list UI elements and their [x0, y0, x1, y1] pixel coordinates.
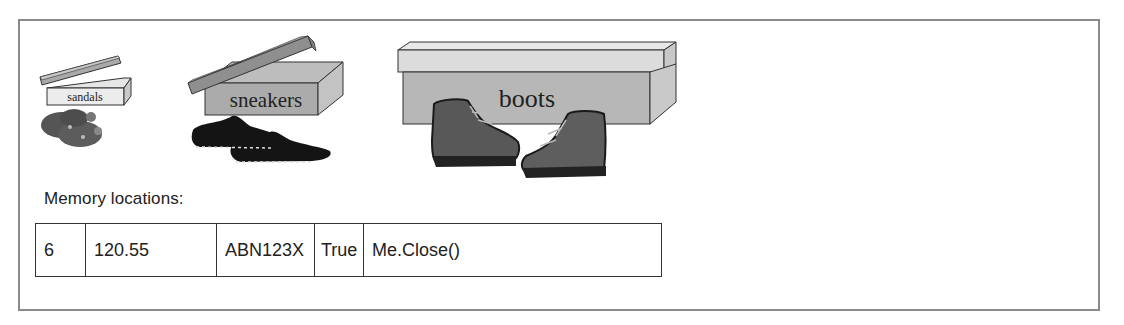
- memory-row: 6 120.55 ABN123X True Me.Close(): [36, 224, 662, 277]
- sneakers-icon: [192, 116, 331, 162]
- shoeboxes-illustration: sandals sneakers: [0, 0, 1124, 200]
- sandals-box: sandals: [40, 56, 131, 147]
- memory-cell-boolean: True: [315, 224, 364, 277]
- boots-label: boots: [499, 84, 555, 113]
- memory-cell-code: Me.Close(): [364, 224, 662, 277]
- memory-cell-string: ABN123X: [217, 224, 315, 277]
- memory-locations-caption: Memory locations:: [44, 189, 184, 209]
- sandals-label: sandals: [67, 90, 103, 104]
- memory-locations-table: 6 120.55 ABN123X True Me.Close(): [35, 223, 662, 277]
- memory-cell-decimal: 120.55: [86, 224, 217, 277]
- sandals-icon: [41, 109, 102, 147]
- sneakers-box: sneakers: [188, 36, 343, 162]
- memory-cell-integer: 6: [36, 224, 86, 277]
- sneakers-label: sneakers: [230, 88, 302, 112]
- boots-box: boots: [398, 42, 676, 178]
